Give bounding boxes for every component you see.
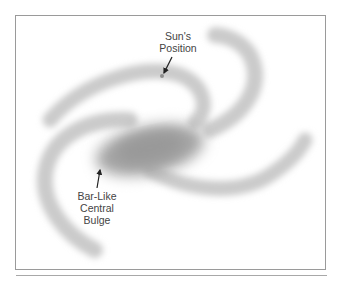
sun-position-dot [160, 74, 164, 78]
sun-position-label: Sun's Position [150, 30, 206, 54]
spiral-arm-right [210, 35, 255, 130]
bulge-arrow [97, 170, 100, 188]
bottom-divider [16, 275, 327, 276]
bulge-label: Bar-Like Central Bulge [66, 190, 128, 226]
